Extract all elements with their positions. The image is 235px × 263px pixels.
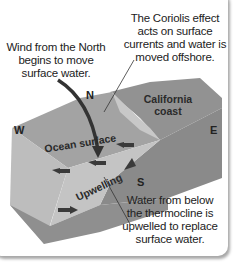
- coriolis-label: The Coriolis effect acts on surface curr…: [115, 12, 235, 64]
- west-label: W: [14, 124, 24, 136]
- california-coast-label: California coast: [140, 93, 196, 117]
- south-label: S: [137, 176, 144, 188]
- east-label: E: [210, 124, 217, 136]
- north-label: N: [86, 89, 94, 101]
- wind-label: Wind from the North begins to move surfa…: [4, 41, 108, 80]
- upwelled-label: Water from below the thermocline is upwe…: [120, 194, 220, 246]
